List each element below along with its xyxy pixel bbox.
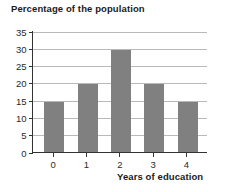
bar — [44, 102, 64, 153]
x-tick-label: 1 — [84, 159, 89, 170]
y-tick-label: 20 — [16, 78, 27, 89]
y-axis-ticks: 05101520253035 — [16, 27, 33, 159]
y-tick-label: 15 — [16, 96, 27, 107]
y-tick-label: 10 — [16, 113, 27, 124]
y-tick-label: 35 — [16, 27, 27, 38]
x-tick-label: 4 — [184, 159, 189, 170]
x-tick-label: 3 — [151, 159, 156, 170]
x-tick-label: 2 — [117, 159, 122, 170]
bar-chart-svg: 05101520253035 01234 — [0, 0, 231, 192]
bar — [111, 50, 131, 153]
y-tick-label: 5 — [21, 130, 26, 141]
y-tick-label: 30 — [16, 44, 27, 55]
x-axis-ticks: 01234 — [51, 153, 190, 170]
x-tick-label: 0 — [51, 159, 56, 170]
y-tick-label: 0 — [21, 148, 26, 159]
bar — [144, 84, 164, 153]
x-axis-title: Years of education — [117, 171, 203, 182]
chart-page: Percentage of the population 05101520253… — [0, 0, 231, 192]
plot-area: 05101520253035 01234 — [0, 0, 231, 192]
bar — [78, 84, 98, 153]
bar — [178, 102, 198, 153]
y-tick-label: 25 — [16, 61, 27, 72]
